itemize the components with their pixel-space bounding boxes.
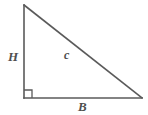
hypotenuse-line	[24, 5, 142, 98]
triangle-drawing	[0, 0, 148, 115]
right-triangle-figure: H c B	[0, 0, 148, 115]
label-vertical-leg-H: H	[8, 50, 18, 63]
right-angle-marker-icon	[24, 90, 32, 98]
label-hypotenuse-c: c	[64, 49, 69, 61]
label-horizontal-leg-B: B	[78, 100, 87, 113]
